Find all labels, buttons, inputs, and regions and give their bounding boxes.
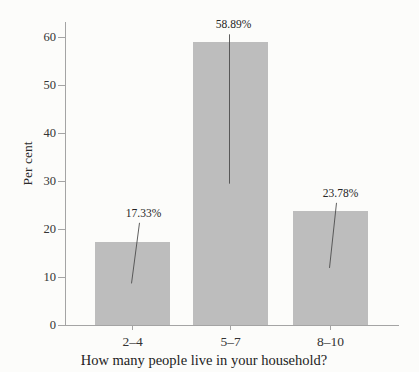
bar — [293, 211, 368, 325]
bar-chart: Per cent 0102030405060 2–45–78–10 17.33%… — [0, 0, 419, 372]
y-tick-label: 20 — [20, 221, 56, 237]
bar — [193, 42, 268, 325]
x-tick-label: 5–7 — [191, 334, 271, 350]
y-tick-label: 40 — [20, 125, 56, 141]
y-tick-label: 10 — [20, 269, 56, 285]
bar — [95, 242, 170, 325]
bar-value-label: 17.33% — [104, 206, 184, 221]
x-tick-label: 8–10 — [291, 334, 371, 350]
x-tick-mark — [330, 325, 331, 330]
x-tick-label: 2–4 — [93, 334, 173, 350]
bar-value-label: 23.78% — [301, 186, 381, 201]
y-tick-mark — [58, 181, 65, 182]
y-tick-label: 0 — [20, 317, 56, 333]
y-tick-mark — [58, 277, 65, 278]
x-axis-title: How many people live in your household? — [64, 351, 344, 369]
y-tick-mark — [58, 325, 65, 326]
y-tick-label: 60 — [20, 29, 56, 45]
y-axis-line — [65, 22, 66, 325]
y-tick-label: 30 — [20, 173, 56, 189]
y-tick-mark — [58, 229, 65, 230]
y-tick-mark — [58, 85, 65, 86]
y-tick-mark — [58, 133, 65, 134]
y-tick-mark — [58, 37, 65, 38]
bar-value-label: 58.89% — [194, 17, 274, 32]
x-tick-mark — [230, 325, 231, 330]
x-tick-mark — [132, 325, 133, 330]
y-tick-label: 50 — [20, 77, 56, 93]
